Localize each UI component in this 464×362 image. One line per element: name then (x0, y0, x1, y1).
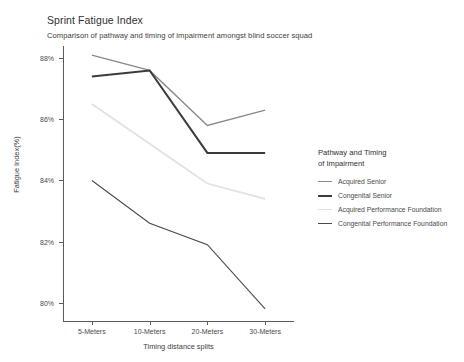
legend-item[interactable]: Acquired Performance Foundation (318, 203, 460, 216)
legend-label: Congenital Senior (338, 192, 392, 199)
legend-swatch-line-icon (318, 223, 332, 225)
series-line-1 (92, 70, 265, 153)
y-tick-label: 82% (14, 238, 54, 245)
legend-swatch-line-icon (318, 209, 332, 211)
x-tick-mark (150, 321, 151, 325)
y-axis-line (63, 46, 64, 322)
legend-label: Acquired Senior (338, 178, 386, 185)
chart-subtitle: Comparison of pathway and timing of impa… (47, 31, 312, 40)
legend-item[interactable]: Congenital Performance Foundation (318, 217, 460, 230)
x-tick-label: 30-Meters (249, 328, 281, 335)
x-tick-label: 10-Meters (134, 328, 166, 335)
x-tick-mark (92, 321, 93, 325)
y-tick-mark (59, 303, 63, 304)
y-tick-mark (59, 242, 63, 243)
legend-item[interactable]: Acquired Senior (318, 175, 460, 188)
series-line-3 (92, 180, 265, 308)
x-tick-mark (265, 321, 266, 325)
legend-label: Acquired Performance Foundation (338, 206, 442, 213)
x-tick-label: 20-Meters (192, 328, 224, 335)
legend: Pathway and Timing of Impairment Acquire… (318, 148, 460, 231)
y-axis-title: Fatigue Index(%) (12, 105, 21, 225)
x-tick-label: 5-Meters (78, 328, 106, 335)
legend-swatch-line-icon (318, 181, 332, 183)
x-axis-title: Timing distance splits (63, 342, 294, 351)
x-tick-mark (207, 321, 208, 325)
series-line-0 (92, 55, 265, 125)
legend-swatch-line-icon (318, 195, 332, 197)
x-axis-line (63, 321, 294, 322)
legend-items: Acquired SeniorCongenital SeniorAcquired… (318, 175, 460, 230)
y-tick-mark (59, 58, 63, 59)
legend-label: Congenital Performance Foundation (338, 220, 447, 227)
y-tick-label: 88% (14, 55, 54, 62)
y-tick-mark (59, 180, 63, 181)
y-tick-label: 80% (14, 299, 54, 306)
chart-title: Sprint Fatigue Index (47, 14, 143, 26)
y-tick-mark (59, 119, 63, 120)
chart-root: Sprint Fatigue Index Comparison of pathw… (0, 0, 464, 362)
series-line-2 (92, 104, 265, 199)
legend-item[interactable]: Congenital Senior (318, 189, 460, 202)
legend-title: Pathway and Timing of Impairment (318, 148, 460, 169)
